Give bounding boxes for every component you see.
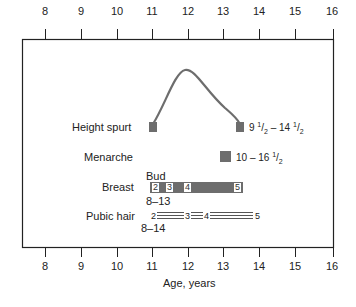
breast-stage-3: 3 xyxy=(166,183,173,192)
menarche-marker xyxy=(220,151,231,162)
breast-range: 8–13 xyxy=(146,195,170,207)
bottom-tick-label: 9 xyxy=(71,260,91,272)
breast-bar: 2 3 4 5 xyxy=(150,182,243,193)
bottom-tick-label: 16 xyxy=(322,260,342,272)
pubic-segment-2 xyxy=(191,212,203,219)
bottom-tick-label: 13 xyxy=(213,260,233,272)
bottom-tick-label: 11 xyxy=(142,260,162,272)
pubic-stage-4: 4 xyxy=(204,212,209,221)
pubic-stage-3: 3 xyxy=(185,212,190,221)
bottom-tick-label: 14 xyxy=(249,260,269,272)
x-axis-label: Age, years xyxy=(163,277,216,289)
pubic-segment-3 xyxy=(210,212,253,219)
menarche-label: Menarche xyxy=(84,151,133,163)
bottom-tick-label: 15 xyxy=(285,260,305,272)
pubic-stage-5: 5 xyxy=(255,212,260,221)
pubic-hair-label: Pubic hair xyxy=(86,210,135,222)
breast-stage-4: 4 xyxy=(184,183,191,192)
breast-label: Breast xyxy=(102,181,134,193)
height-end-marker xyxy=(236,122,244,132)
menarche-range: 10 – 16 1/2 xyxy=(236,151,283,165)
pubic-hair-range: 8–14 xyxy=(141,222,165,234)
breast-stage-5: 5 xyxy=(234,183,241,192)
breast-bud-note: Bud xyxy=(146,170,166,182)
height-spurt-range: 9 1/2 – 14 1/2 xyxy=(249,121,304,135)
pubic-stage-2: 2 xyxy=(151,212,156,221)
bottom-tick-label: 10 xyxy=(107,260,127,272)
height-spurt-curve xyxy=(153,70,240,124)
pubic-segment-1 xyxy=(157,212,184,219)
height-start-marker xyxy=(149,122,157,132)
bottom-tick-label: 8 xyxy=(35,260,55,272)
breast-stage-2: 2 xyxy=(152,183,159,192)
bottom-tick-label: 12 xyxy=(178,260,198,272)
height-spurt-label: Height spurt xyxy=(72,121,131,133)
